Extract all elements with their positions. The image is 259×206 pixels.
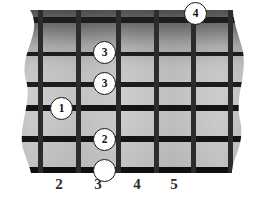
fretboard-body: 4 3 3 1 2	[0, 8, 259, 175]
finger-marker-label: 3	[102, 78, 108, 90]
finger-marker-3-lower[interactable]: 3	[93, 72, 116, 95]
finger-marker-2[interactable]: 2	[93, 128, 116, 151]
finger-marker-3-upper[interactable]: 3	[93, 41, 116, 64]
finger-marker-label: 2	[102, 134, 108, 146]
fretboard-surface	[0, 8, 259, 175]
finger-marker-label: 1	[59, 103, 65, 115]
fret-number-4: 4	[124, 176, 150, 193]
finger-marker-label: 4	[193, 8, 199, 20]
fret-number-5: 5	[161, 176, 187, 193]
open-string-marker[interactable]	[93, 159, 116, 182]
finger-marker-4[interactable]: 4	[184, 2, 207, 25]
finger-marker-1[interactable]: 1	[50, 97, 73, 120]
fret-number-row: 2 3 4 5	[0, 176, 259, 206]
finger-marker-label: 3	[102, 47, 108, 59]
fretboard-diagram: 4 3 3 1 2 2 3 4 5	[0, 0, 259, 206]
fret-number-2: 2	[46, 176, 72, 193]
